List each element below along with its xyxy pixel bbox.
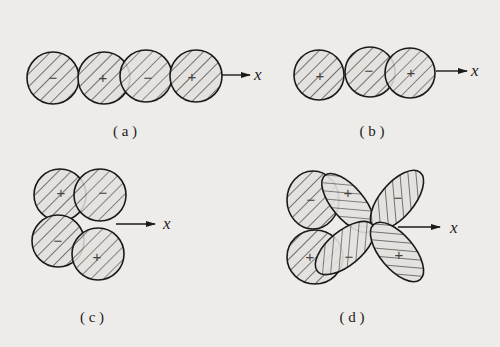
panel-a: − + − + x ( a ) — [27, 50, 262, 140]
sign-label: + — [344, 184, 353, 201]
sign-label: − — [54, 232, 63, 249]
x-axis-label: x — [162, 214, 171, 233]
sign-label: − — [365, 62, 374, 79]
panel-b: + − + x ( b ) — [294, 47, 479, 140]
sign-label: + — [407, 64, 416, 81]
x-axis-label: x — [449, 218, 458, 237]
orbital-overlap-figure: − + − + x ( a ) + − + x — [0, 0, 500, 347]
lobe: − — [27, 52, 79, 104]
sign-label: + — [306, 248, 315, 265]
panel-caption: ( c ) — [80, 309, 104, 326]
x-axis-label: x — [253, 65, 262, 84]
sign-label: + — [395, 246, 404, 263]
panel-caption: ( a ) — [113, 123, 137, 140]
panel-c: + − − + x ( c ) — [32, 169, 171, 326]
sign-label: + — [99, 69, 108, 86]
sign-label: − — [394, 189, 403, 206]
sign-label: + — [188, 68, 197, 85]
sign-label: + — [57, 184, 66, 201]
sign-label: + — [316, 67, 325, 84]
sign-label: + — [93, 248, 102, 265]
panel-caption: ( d ) — [340, 309, 365, 326]
lobe: + — [385, 48, 435, 98]
lobe: + — [72, 228, 124, 280]
lobe: + — [170, 50, 222, 102]
x-axis-label: x — [470, 61, 479, 80]
sign-label: − — [49, 69, 58, 86]
panel-d: − + + − − + x ( d ) — [287, 161, 458, 326]
sign-label: − — [345, 248, 354, 265]
lobe: − — [120, 50, 172, 102]
sign-label: − — [144, 69, 153, 86]
lobe: − — [74, 169, 126, 221]
sign-label: − — [99, 184, 108, 201]
sign-label: − — [307, 191, 316, 208]
panel-caption: ( b ) — [360, 123, 385, 140]
lobe: + — [294, 50, 344, 100]
